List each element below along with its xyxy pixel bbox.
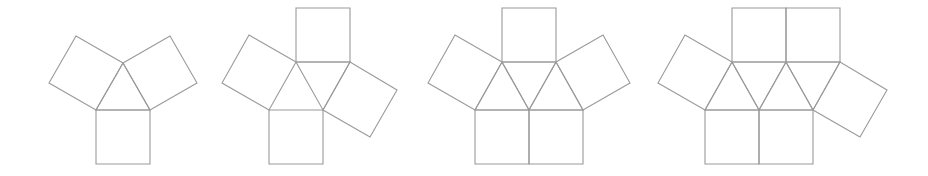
net-3-triangle-left-up	[475, 62, 529, 110]
net-4-square-bottom-right	[759, 110, 813, 164]
net-4-square-top-left	[732, 8, 786, 62]
net-4	[658, 8, 887, 164]
nets-diagram	[0, 0, 928, 176]
net-3-square-bottom-left	[475, 110, 529, 164]
net-4-triangle-3-up	[759, 62, 813, 110]
net-1-square-upper-right	[123, 36, 197, 110]
net-2	[222, 8, 397, 164]
net-3-triangle-center-down	[502, 62, 556, 110]
net-3-square-upper-left	[428, 35, 502, 110]
net-2-square-bottom	[269, 110, 323, 164]
net-4-triangle-2-down	[732, 62, 786, 110]
figure-sheet	[0, 0, 928, 176]
net-4-square-top-right	[786, 8, 840, 62]
net-1	[49, 36, 197, 164]
net-3-square-top	[502, 8, 556, 62]
net-2-square-lower-right	[323, 62, 397, 137]
net-2-triangle-center	[296, 62, 350, 110]
net-4-square-bottom-left	[705, 110, 759, 164]
net-4-triangle-1-up	[705, 62, 759, 110]
net-3-triangle-right-up	[529, 62, 583, 110]
net-4-square-upper-left	[658, 35, 732, 110]
net-2-square-upper-left	[222, 35, 296, 110]
net-4-square-lower-right	[813, 62, 887, 137]
net-3-square-bottom-right	[529, 110, 583, 164]
net-1-square-upper-left	[49, 36, 123, 110]
net-2-square-top	[296, 8, 350, 62]
net-3-square-upper-right	[556, 35, 630, 110]
net-1-triangle-center	[96, 63, 150, 110]
net-1-square-bottom	[96, 110, 150, 164]
net-4-triangle-4-down	[786, 62, 840, 110]
net-3	[428, 8, 630, 164]
